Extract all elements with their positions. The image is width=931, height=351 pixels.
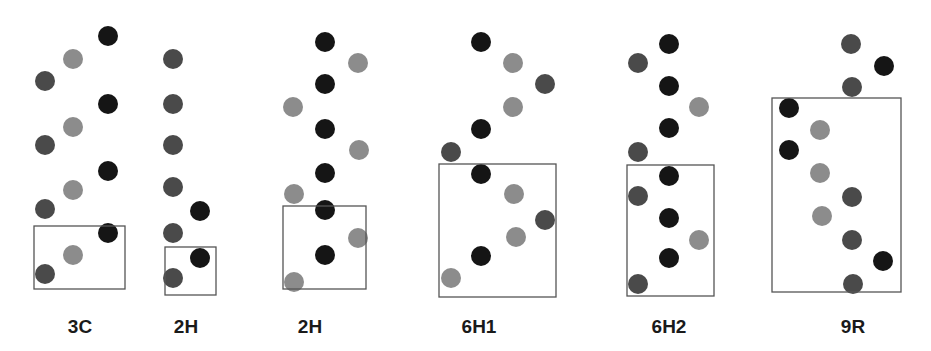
mid-dot: [842, 77, 862, 97]
panel-9r: [772, 34, 901, 294]
stacking-diagram: 3C 2H 2H 6H1 6H2 9R: [0, 0, 931, 351]
black-dot: [315, 163, 335, 183]
panel-label-3c: 3C: [68, 316, 92, 338]
panel-6h2: [627, 34, 714, 296]
black-dot: [471, 32, 491, 52]
light-dot: [504, 184, 524, 204]
black-dot: [190, 201, 210, 221]
light-dot: [284, 184, 304, 204]
mid-dot: [628, 274, 648, 294]
black-dot: [315, 245, 335, 265]
panel-2h: [283, 32, 369, 292]
black-dot: [659, 76, 679, 96]
panel-label-6h2: 6H2: [652, 316, 687, 338]
black-dot: [315, 119, 335, 139]
black-dot: [779, 140, 799, 160]
panel-label-6h1: 6H1: [462, 316, 497, 338]
black-dot: [874, 56, 894, 76]
mid-dot: [628, 186, 648, 206]
black-dot: [190, 248, 210, 268]
panel-label-2h-b: 2H: [298, 316, 322, 338]
panel-label-2h-a: 2H: [174, 316, 198, 338]
light-dot: [63, 245, 83, 265]
mid-dot: [35, 71, 55, 91]
black-dot: [659, 248, 679, 268]
mid-dot: [842, 230, 862, 250]
mid-dot: [163, 177, 183, 197]
light-dot: [810, 163, 830, 183]
light-dot: [503, 97, 523, 117]
black-dot: [659, 208, 679, 228]
black-dot: [873, 251, 893, 271]
light-dot: [348, 228, 368, 248]
light-dot: [506, 227, 526, 247]
light-dot: [63, 180, 83, 200]
black-dot: [659, 166, 679, 186]
light-dot: [503, 53, 523, 73]
black-dot: [315, 32, 335, 52]
mid-dot: [35, 135, 55, 155]
black-dot: [315, 74, 335, 94]
mid-dot: [163, 49, 183, 69]
mid-dot: [628, 53, 648, 73]
black-dot: [315, 200, 335, 220]
panel-label-9r: 9R: [841, 316, 865, 338]
light-dot: [810, 120, 830, 140]
black-dot: [471, 246, 491, 266]
black-dot: [98, 161, 118, 181]
light-dot: [689, 97, 709, 117]
mid-dot: [163, 268, 183, 288]
black-dot: [659, 34, 679, 54]
black-dot: [471, 119, 491, 139]
mid-dot: [441, 142, 461, 162]
mid-dot: [35, 264, 55, 284]
mid-dot: [842, 187, 862, 207]
panel-6h1: [439, 32, 556, 297]
light-dot: [812, 206, 832, 226]
black-dot: [659, 118, 679, 138]
light-dot: [63, 117, 83, 137]
mid-dot: [163, 135, 183, 155]
panel-3c: [34, 26, 125, 289]
mid-dot: [843, 274, 863, 294]
mid-dot: [628, 142, 648, 162]
mid-dot: [535, 74, 555, 94]
mid-dot: [163, 94, 183, 114]
black-dot: [779, 98, 799, 118]
light-dot: [348, 53, 368, 73]
mid-dot: [35, 199, 55, 219]
mid-dot: [535, 210, 555, 230]
light-dot: [63, 49, 83, 69]
light-dot: [689, 230, 709, 250]
light-dot: [441, 268, 461, 288]
black-dot: [471, 164, 491, 184]
light-dot: [349, 140, 369, 160]
mid-dot: [841, 34, 861, 54]
black-dot: [98, 94, 118, 114]
mid-dot: [163, 223, 183, 243]
light-dot: [283, 97, 303, 117]
panel-2h: [163, 49, 216, 295]
dot-stacking-figure: [0, 0, 931, 351]
black-dot: [98, 26, 118, 46]
